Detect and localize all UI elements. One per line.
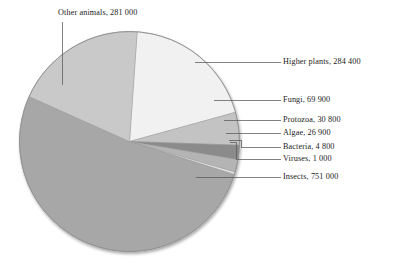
label-insects: Insects, 751 000 — [283, 173, 338, 181]
label-viruses: Viruses, 1 000 — [283, 155, 332, 163]
label-bacteria: Bacteria, 4 800 — [283, 143, 335, 151]
label-protozoa: Protozoa, 30 800 — [283, 116, 341, 124]
label-other-animals: Other animals, 281 000 — [58, 9, 138, 17]
pie-slices — [19, 32, 239, 252]
label-fungi: Fungi, 69 900 — [283, 96, 330, 104]
pie-body — [19, 32, 239, 252]
pie-chart — [0, 0, 398, 267]
label-higher-plants: Higher plants, 284 400 — [283, 58, 361, 66]
label-algae: Algae, 26 900 — [283, 129, 331, 137]
chart-canvas: Other animals, 281 000 Higher plants, 28… — [0, 0, 398, 267]
